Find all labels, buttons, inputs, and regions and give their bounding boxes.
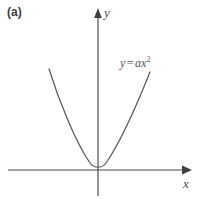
panel-label: (a)	[7, 5, 22, 19]
parabola-plot	[0, 0, 198, 199]
curve-equation-label: y=ax2	[120, 56, 150, 71]
x-axis-label: x	[183, 176, 189, 192]
y-axis-label: y	[104, 5, 110, 21]
figure-panel-a: (a) y x y=ax2	[0, 0, 198, 199]
equation-equals-sign: =	[125, 56, 135, 70]
parabola-curve	[49, 69, 150, 167]
equation-exponent: 2	[146, 55, 150, 64]
y-axis-arrow-icon	[94, 8, 102, 18]
x-axis-arrow-icon	[182, 166, 192, 175]
